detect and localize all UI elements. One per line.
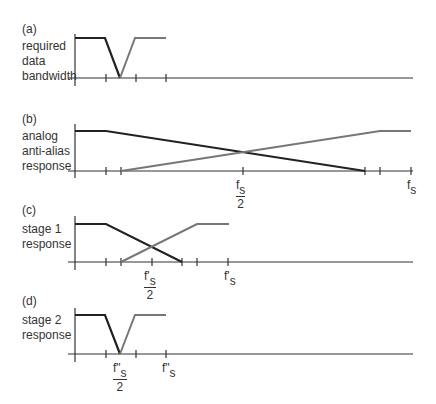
panel-b-plot (68, 124, 413, 178)
panel-b-image-curve (121, 131, 411, 171)
panel-a-plot (68, 34, 413, 86)
panel-c-fs-label: f's (224, 270, 236, 282)
filter-response-diagram (0, 0, 436, 404)
panel-b-passband-curve (75, 131, 365, 171)
panel-d-passband-curve (75, 315, 120, 354)
panel-b-fs-label: fs (407, 179, 416, 191)
panel-a-passband-curve (75, 38, 120, 78)
panel-d-fs-label: f"s (162, 362, 176, 374)
panel-d-plot (68, 308, 413, 362)
panel-b-half-fs-label: fs2 (236, 179, 245, 210)
panel-d-image-curve (120, 315, 166, 354)
panel-d-half-fs-label: f"s2 (113, 362, 127, 393)
panel-c-plot (68, 216, 413, 270)
panel-c-passband-curve (75, 224, 182, 262)
panel-c-half-fs-label: f's2 (144, 270, 156, 301)
panel-a-image-curve (120, 38, 166, 78)
panel-c-image-curve (121, 224, 229, 262)
